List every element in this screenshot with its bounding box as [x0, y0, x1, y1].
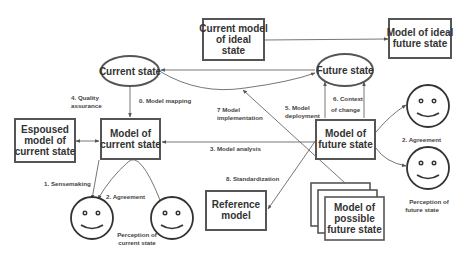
- smiley-face-icon: [71, 197, 113, 239]
- node-reference-model[interactable]: Reference model: [206, 191, 266, 230]
- node-label: Reference: [212, 199, 261, 210]
- edge-label-model-deployment: 5. Model: [285, 104, 310, 111]
- node-label: Model of: [325, 128, 367, 139]
- edge-label-standardization: 8. Standardization: [226, 175, 280, 182]
- node-label: current state: [15, 146, 76, 157]
- node-model-current-state[interactable]: Model of current state: [100, 119, 161, 159]
- smiley-face-icon: [407, 147, 449, 189]
- node-model-possible-future[interactable]: Model of possible future state: [311, 183, 384, 240]
- node-label: future state: [393, 38, 448, 49]
- node-future-state[interactable]: Future state: [316, 54, 374, 86]
- node-label: Future state: [316, 65, 374, 76]
- edge-label-model-analysis: 3. Model analysis: [210, 145, 261, 152]
- node-label: current state: [100, 139, 161, 150]
- face-label-perception-current: Perception of: [117, 231, 157, 238]
- node-label: model: [221, 210, 251, 221]
- node-espoused-model[interactable]: Espoused model of current state: [15, 119, 76, 162]
- edge-label-context-of-change: 6. Context: [333, 95, 363, 102]
- edge-label-model-implementation: implementation: [217, 114, 263, 121]
- ontology-diagram: Current model of ideal state Model of id…: [0, 0, 466, 259]
- node-label: of ideal: [216, 34, 251, 45]
- node-label: future state: [327, 224, 382, 235]
- edge-label-context-of-change: of change: [331, 106, 361, 113]
- edge-sensemaking: [92, 160, 99, 199]
- smiley-face-icon: [407, 85, 449, 127]
- node-label: model of: [24, 135, 66, 146]
- node-model-ideal-future[interactable]: Model of ideal future state: [387, 19, 454, 58]
- smiley-face-icon: [151, 197, 193, 239]
- edge-label-agreement-right: 2. Agreement: [402, 136, 441, 143]
- node-label: Model of: [334, 202, 376, 213]
- edge-ideal-to-ideal-future: [264, 39, 388, 40]
- node-model-future-state[interactable]: Model of future state: [316, 120, 375, 159]
- edge-label-agreement-left: 2. Agreement: [106, 193, 145, 200]
- edge-label-model-deployment: deployment: [285, 112, 320, 119]
- node-label: Current state: [99, 66, 162, 77]
- edge-label-quality-assurance: assurance: [71, 102, 102, 109]
- node-label: Current model: [199, 23, 268, 34]
- face-label-perception-current: current state: [118, 239, 156, 246]
- edge-future-to-face-top: [376, 105, 406, 132]
- edge-label-sensemaking: 1. Sensemaking: [44, 180, 91, 187]
- node-label: Model of ideal: [387, 27, 454, 38]
- node-label: Model of: [110, 128, 152, 139]
- node-current-model-ideal[interactable]: Current model of ideal state: [199, 19, 268, 60]
- node-label: Espoused: [21, 124, 69, 135]
- node-label: state: [222, 45, 246, 56]
- edge-label-model-mapping: 0. Model mapping: [139, 97, 191, 104]
- node-label: possible: [334, 213, 375, 224]
- edge-current-future-curve: [161, 72, 315, 90]
- edge-label-model-implementation: 7 Model: [217, 106, 240, 113]
- face-label-perception-future: Perception of: [409, 198, 449, 205]
- node-current-state[interactable]: Current state: [99, 56, 162, 86]
- node-label: future state: [318, 139, 373, 150]
- edge-future-to-face-bottom: [376, 148, 406, 166]
- edge-label-quality-assurance: 4. Quality: [71, 94, 99, 101]
- face-label-perception-future: future state: [405, 206, 439, 213]
